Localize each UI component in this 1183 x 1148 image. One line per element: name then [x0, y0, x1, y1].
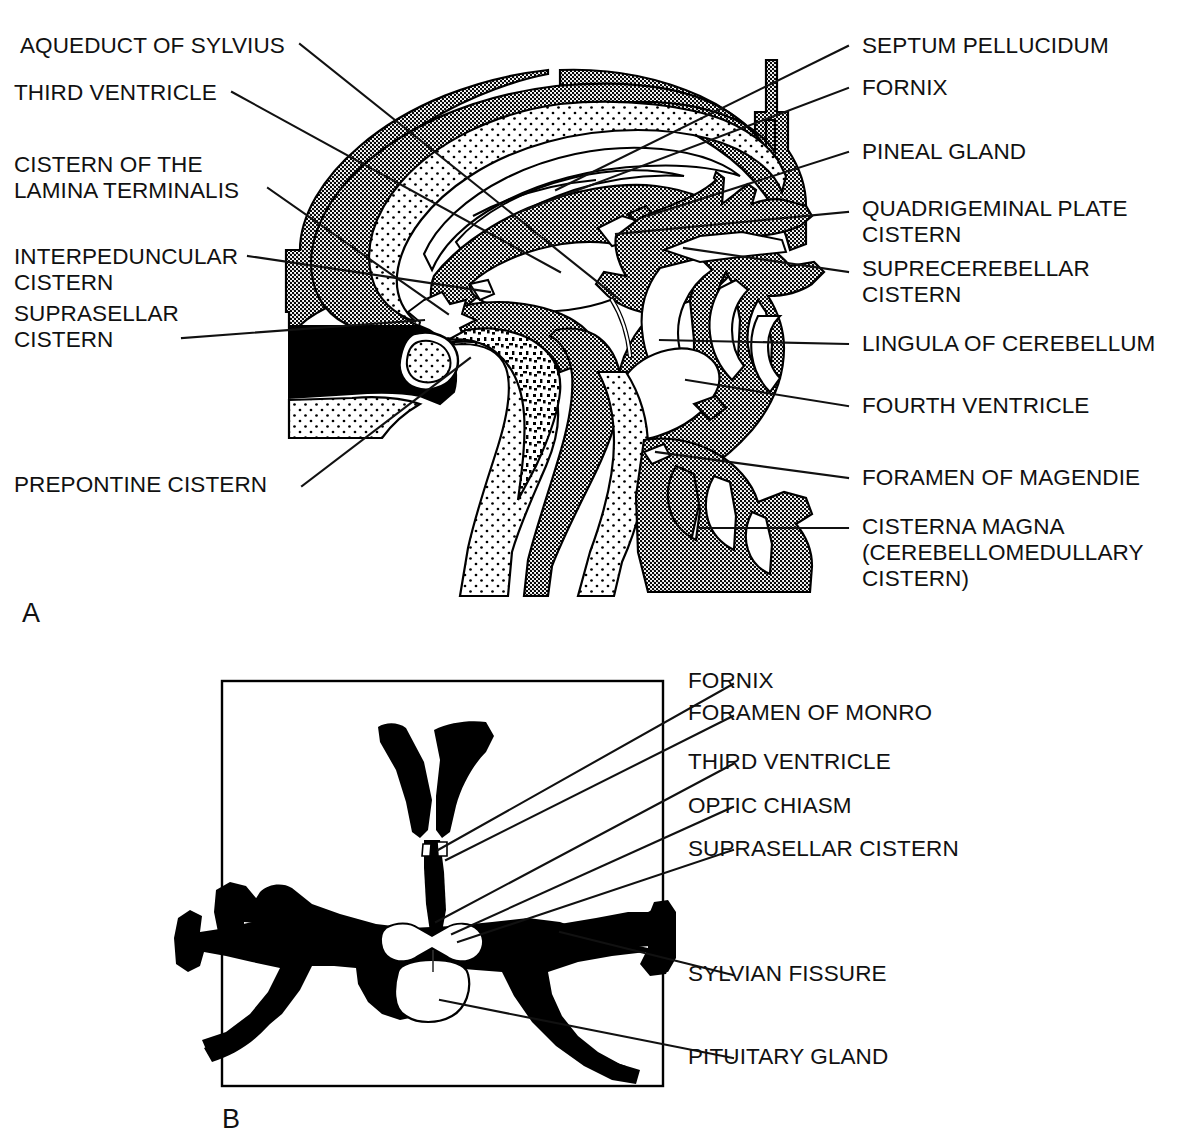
label-quadrigeminal-plate-cistern: QUADRIGEMINAL PLATE CISTERN	[862, 196, 1128, 248]
sella-pituitary-inner	[407, 341, 451, 382]
anatomy-figure: AQUEDUCT OF SYLVIUS THIRD VENTRICLE CIST…	[0, 0, 1183, 1148]
skull-base-wedge	[289, 397, 420, 438]
leader-b-optic-chiasm	[452, 807, 733, 934]
panel-a-drawing	[182, 44, 848, 596]
lateral-ventricle-right-frontal-horn	[434, 721, 494, 838]
panel-b-drawing	[174, 681, 733, 1086]
label-fourth-ventricle: FOURTH VENTRICLE	[862, 393, 1089, 419]
label-b-pituitary-gland: PITUITARY GLAND	[688, 1044, 888, 1070]
label-interpeduncular-cistern: INTERPEDUNCULAR CISTERN	[14, 244, 238, 296]
label-cisterna-magna: CISTERNA MAGNA (CEREBELLOMEDULLARY CISTE…	[862, 514, 1144, 592]
foramen-of-monro-left	[422, 844, 431, 856]
panel-letter-a: A	[22, 598, 40, 629]
label-b-sylvian-fissure: SYLVIAN FISSURE	[688, 961, 887, 987]
label-b-optic-chiasm: OPTIC CHIASM	[688, 793, 852, 819]
label-aqueduct-of-sylvius: AQUEDUCT OF SYLVIUS	[20, 33, 285, 59]
lateral-ventricle-left-frontal-horn	[378, 723, 432, 838]
label-third-ventricle: THIRD VENTRICLE	[14, 80, 217, 106]
panel-b-illustration	[0, 660, 1183, 1120]
label-fornix: FORNIX	[862, 75, 948, 101]
label-foramen-of-magendie: FORAMEN OF MAGENDIE	[862, 465, 1140, 491]
label-septum-pellucidum: SEPTUM PELLUCIDUM	[862, 33, 1109, 59]
pituitary-gland-outline	[395, 960, 469, 1022]
label-lingula-of-cerebellum: LINGULA OF CEREBELLUM	[862, 331, 1155, 357]
label-cistern-of-the-lamina-terminalis: CISTERN OF THE LAMINA TERMINALIS	[14, 152, 239, 204]
label-b-third-ventricle: THIRD VENTRICLE	[688, 749, 891, 775]
label-b-foramen-of-monro: FORAMEN OF MONRO	[688, 700, 932, 726]
panel-letter-b: B	[222, 1104, 240, 1135]
ambient-cistern-left-limb	[204, 962, 298, 1062]
label-pineal-gland: PINEAL GLAND	[862, 139, 1026, 165]
label-b-fornix: FORNIX	[688, 668, 774, 694]
label-b-suprasellar-cistern: SUPRASELLAR CISTERN	[688, 836, 959, 862]
label-suprasellar-cistern: SUPRASELLAR CISTERN	[14, 301, 179, 353]
label-prepontine-cistern: PREPONTINE CISTERN	[14, 472, 267, 498]
label-suprecerebellar-cistern: SUPRECEREBELLAR CISTERN	[862, 256, 1090, 308]
